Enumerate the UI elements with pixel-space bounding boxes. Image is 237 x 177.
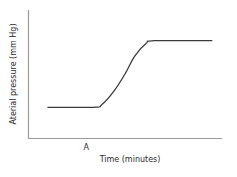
x-tick-layer: A (83, 143, 89, 152)
series-layer (47, 41, 212, 108)
x-tick-label: A (83, 143, 89, 152)
y-axis-label: Aterial pressure (mm Hg) (9, 23, 18, 124)
series-line (47, 41, 212, 108)
chart: A Time (minutes) Aterial pressure (mm Hg… (0, 0, 237, 177)
x-axis-label: Time (minutes) (99, 155, 161, 164)
